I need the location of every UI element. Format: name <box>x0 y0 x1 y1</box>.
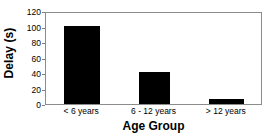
x-tick-label: 6 - 12 years <box>131 107 176 116</box>
x-axis-label: Age Group <box>45 120 262 132</box>
x-tick-label: > 12 years <box>206 107 246 116</box>
y-tick-mark <box>42 105 45 106</box>
y-axis-tick-labels: 020406080100120 <box>18 0 41 136</box>
bar <box>139 72 170 104</box>
y-axis-label: Delay (s) <box>0 0 18 105</box>
bar-chart-figure: Delay (s) 020406080100120 < 6 years6 - 1… <box>0 0 277 136</box>
y-tick-label: 60 <box>18 54 41 63</box>
bar <box>209 99 244 104</box>
y-tick-label: 120 <box>18 8 41 17</box>
y-tick-label: 20 <box>18 85 41 94</box>
y-tick-label: 80 <box>18 39 41 48</box>
bar <box>64 26 100 104</box>
y-tick-label: 0 <box>18 101 41 110</box>
x-tick-label: < 6 years <box>64 107 99 116</box>
plot-area <box>45 12 262 105</box>
y-tick-label: 100 <box>18 23 41 32</box>
y-tick-label: 40 <box>18 70 41 79</box>
x-axis-tick-labels: < 6 years6 - 12 years> 12 years <box>45 107 262 119</box>
y-axis-label-text: Delay (s) <box>2 27 16 78</box>
